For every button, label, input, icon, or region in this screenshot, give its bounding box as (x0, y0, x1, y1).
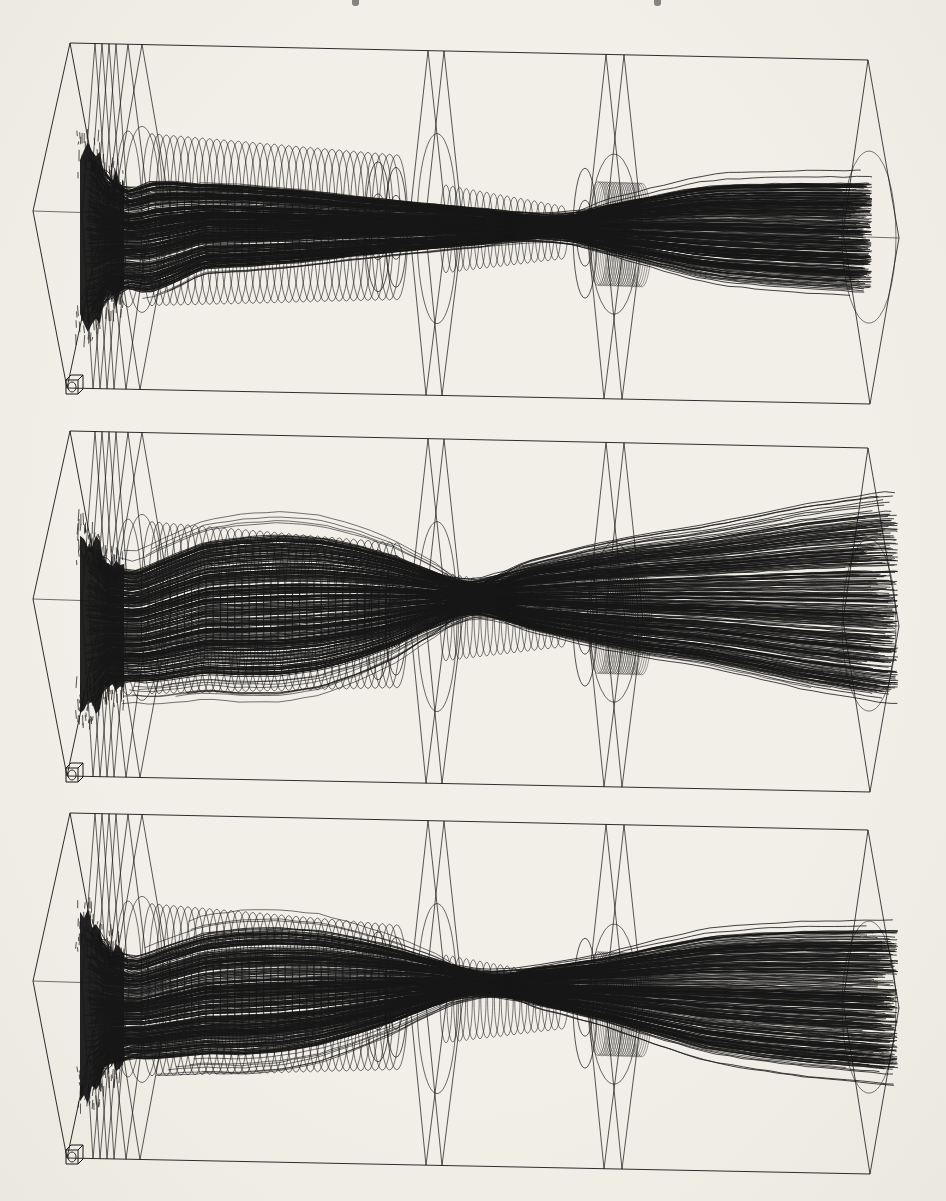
beam-trajectories-middle (85, 492, 898, 705)
beam-trajectories-top (85, 157, 872, 316)
origin-cube-marker-top (66, 375, 83, 394)
beam-plot-panel-1 (0, 36, 946, 422)
beam-plot-panel-3 (0, 806, 946, 1192)
cropped-heading-descender-right (654, 0, 661, 6)
beam-trajectories-bottom (85, 910, 898, 1087)
beam-plot-svg-middle (0, 424, 946, 810)
scanned-paper-page (0, 0, 946, 1201)
beam-plot-svg-top (0, 36, 946, 422)
origin-cube-marker-middle (66, 763, 83, 782)
beam-plot-svg-bottom (0, 806, 946, 1192)
origin-cube-marker-bottom (66, 1145, 83, 1164)
beam-plot-panel-2 (0, 424, 946, 810)
gun-source-blob-middle (76, 509, 124, 729)
cropped-heading-descender-left (352, 0, 359, 6)
gun-source-blob-top (76, 129, 124, 347)
